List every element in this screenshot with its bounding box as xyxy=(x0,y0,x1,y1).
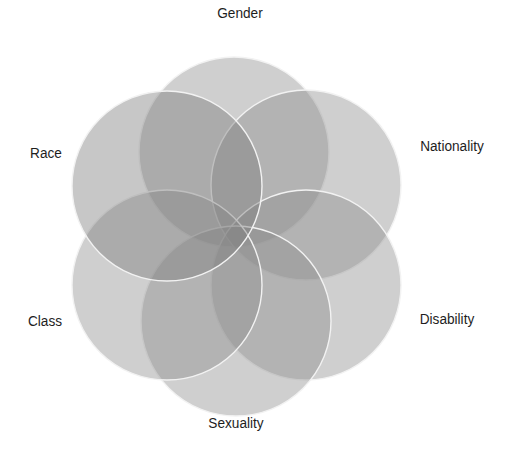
intersectionality-diagram: Gender Nationality Disability Sexuality … xyxy=(0,0,510,451)
label-disability: Disability xyxy=(420,310,475,327)
circles-layer xyxy=(72,57,401,416)
label-gender: Gender xyxy=(217,4,263,21)
label-class: Class xyxy=(28,312,62,329)
label-race: Race xyxy=(30,144,62,161)
label-nationality: Nationality xyxy=(420,137,484,154)
label-sexuality: Sexuality xyxy=(208,414,264,431)
circle-race xyxy=(72,91,262,281)
